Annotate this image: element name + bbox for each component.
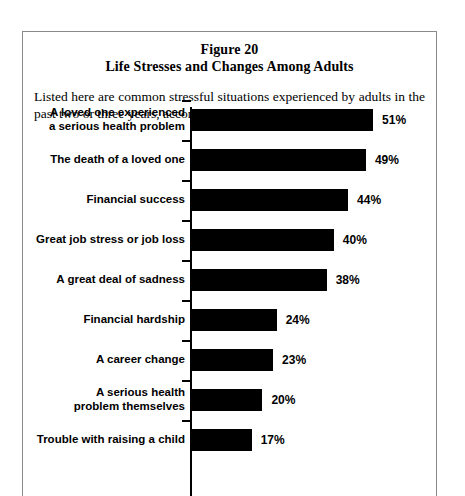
chart-row: Great job stress or job loss40% bbox=[0, 229, 413, 251]
bar bbox=[191, 349, 273, 371]
bar bbox=[191, 269, 327, 291]
bar-category-label: Financial hardship bbox=[0, 313, 185, 327]
figure-number: Figure 20 bbox=[23, 41, 436, 58]
chart-row: A loved one experienced a serious health… bbox=[0, 109, 413, 131]
bar bbox=[191, 229, 334, 251]
axis-tick bbox=[182, 420, 191, 422]
chart-row: The death of a loved one49% bbox=[0, 149, 413, 171]
bar-category-label: Great job stress or job loss bbox=[0, 233, 185, 247]
bar bbox=[191, 149, 366, 171]
axis-tick bbox=[182, 100, 191, 102]
bar-value-label: 49% bbox=[375, 153, 399, 167]
bar-value-label: 23% bbox=[282, 353, 306, 367]
axis-tick bbox=[182, 140, 191, 142]
chart-row: Financial success44% bbox=[0, 189, 413, 211]
axis-tick bbox=[182, 180, 191, 182]
chart-row: A great deal of sadness38% bbox=[0, 269, 413, 291]
bar-category-label: The death of a loved one bbox=[0, 153, 185, 167]
figure-title: Figure 20 Life Stresses and Changes Amon… bbox=[23, 32, 436, 75]
bar-category-label: Financial success bbox=[0, 193, 185, 207]
bar-value-label: 44% bbox=[357, 193, 381, 207]
axis-tick bbox=[182, 260, 191, 262]
axis-tick bbox=[182, 220, 191, 222]
bar-category-label: A career change bbox=[0, 353, 185, 367]
bar-chart: A loved one experienced a serious health… bbox=[0, 106, 413, 496]
bar bbox=[191, 109, 373, 131]
bar-category-label: A serious health problem themselves bbox=[0, 386, 185, 413]
chart-row: Trouble with raising a child17% bbox=[0, 429, 413, 451]
axis-tick bbox=[182, 380, 191, 382]
bar-category-label: A great deal of sadness bbox=[0, 273, 185, 287]
chart-row: Financial hardship24% bbox=[0, 309, 413, 331]
bar bbox=[191, 189, 348, 211]
bar bbox=[191, 309, 277, 331]
bar-value-label: 51% bbox=[382, 113, 406, 127]
bar bbox=[191, 389, 262, 411]
bar-category-label: Trouble with raising a child bbox=[0, 433, 185, 447]
bar-value-label: 38% bbox=[336, 273, 360, 287]
axis-tick bbox=[182, 300, 191, 302]
figure-heading: Life Stresses and Changes Among Adults bbox=[23, 58, 436, 75]
chart-row: A career change23% bbox=[0, 349, 413, 371]
axis-tick bbox=[182, 340, 191, 342]
chart-row: A serious health problem themselves20% bbox=[0, 389, 413, 411]
bar-value-label: 20% bbox=[271, 393, 295, 407]
bar-value-label: 40% bbox=[343, 233, 367, 247]
bar-value-label: 17% bbox=[261, 433, 285, 447]
bar-category-label: A loved one experienced a serious health… bbox=[0, 106, 185, 133]
bar-value-label: 24% bbox=[286, 313, 310, 327]
bar bbox=[191, 429, 252, 451]
